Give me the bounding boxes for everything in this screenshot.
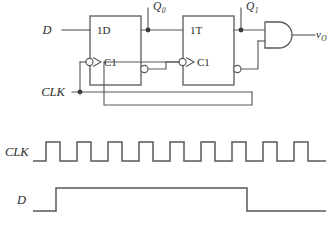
timing-diagram-layer: CLK D: [0, 0, 332, 227]
d-waveform-trace: [33, 188, 326, 211]
circuit-figure: D CLK 1D C1 1T C1 Q0 Q1 vO CLK D: [0, 0, 332, 227]
d-waveform-label: D: [16, 193, 26, 207]
clk-waveform-trace: [33, 142, 326, 161]
clk-waveform-label: CLK: [5, 145, 29, 159]
